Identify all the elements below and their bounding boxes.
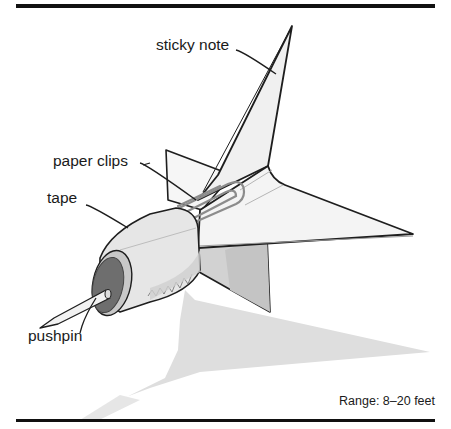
label-pushpin: pushpin: [28, 328, 82, 344]
label-paper-clips: paper clips: [53, 153, 128, 169]
bottom-rule: [16, 419, 435, 422]
range-caption: Range: 8–20 feet: [339, 395, 435, 408]
label-tape: tape: [47, 190, 77, 206]
leader-tape: [86, 205, 128, 228]
leader-sticky-note: [236, 50, 276, 74]
dart-illustration: [0, 0, 451, 429]
label-sticky-note: sticky note: [156, 37, 229, 53]
